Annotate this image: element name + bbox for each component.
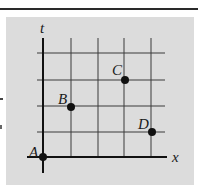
spacetime-diagram: t x A B C D xyxy=(0,0,206,196)
t-axis-label: t xyxy=(40,20,45,36)
point-d-label: D xyxy=(137,116,149,132)
point-d xyxy=(148,128,156,136)
point-c xyxy=(121,76,129,84)
point-a-label: A xyxy=(28,144,39,160)
point-c-label: C xyxy=(112,62,123,78)
vertical-grid-lines xyxy=(71,38,151,157)
x-axis-label: x xyxy=(171,149,179,165)
point-b xyxy=(67,103,75,111)
point-b-label: B xyxy=(58,91,67,107)
point-a xyxy=(39,153,47,161)
